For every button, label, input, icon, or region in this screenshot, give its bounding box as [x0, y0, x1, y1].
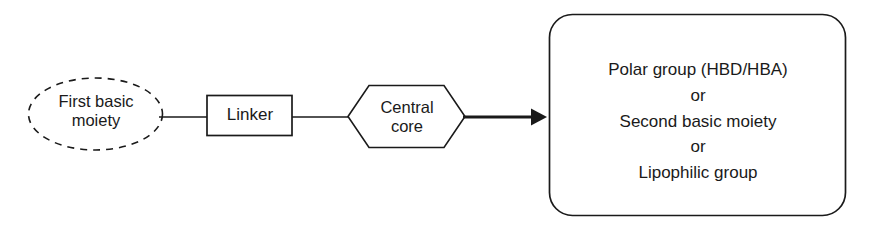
node-terminal-options-shape[interactable]: [550, 15, 846, 216]
connector-core-to-terminal: [463, 109, 547, 126]
node-linker-shape[interactable]: [207, 96, 292, 136]
diagram-canvas: [0, 0, 871, 233]
node-central-core-shape[interactable]: [348, 86, 465, 148]
node-first-basic-moiety-shape[interactable]: [29, 78, 163, 150]
